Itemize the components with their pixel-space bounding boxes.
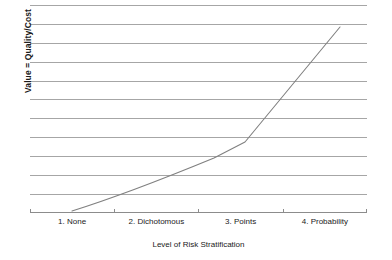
x-axis-ticks: [31, 209, 367, 213]
x-tick-label-dichotomous: 2. Dichotomous: [114, 217, 198, 226]
x-tick-label-points: 3. Points: [199, 217, 283, 226]
x-axis-title: Level of Risk Stratification: [30, 240, 367, 249]
x-axis-tick-labels: 1. None 2. Dichotomous 3. Points 4. Prob…: [30, 217, 367, 226]
x-tick-label-none: 1. None: [30, 217, 114, 226]
x-tick-label-probability: 4. Probability: [283, 217, 367, 226]
gridlines-horizontal: [30, 6, 367, 195]
y-axis-title: Value = Quality/Cost: [23, 0, 33, 131]
chart-container: Value = Quality/Cost 1. None 2. Dichotom…: [0, 0, 392, 260]
